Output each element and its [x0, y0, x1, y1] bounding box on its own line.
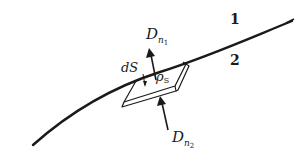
dn1-sub: n1 [158, 35, 168, 45]
region-1-label: 1 [230, 12, 240, 26]
dn2-subsub: 2 [190, 142, 194, 150]
dn2-arrow [157, 96, 168, 130]
rho-s-label: ρS [156, 70, 169, 85]
ds-label: dS [121, 61, 138, 74]
dn1-subsub: 1 [164, 39, 168, 47]
dn1-label: Dn1 [146, 27, 168, 47]
pillbox-side-face [176, 64, 189, 91]
dn1-main: D [146, 25, 158, 43]
diagram-canvas [0, 0, 306, 154]
dn2-main: D [172, 128, 184, 146]
region-2-label: 2 [230, 53, 240, 67]
pillbox-front-face [122, 86, 176, 107]
rho-sub: S [164, 76, 169, 85]
dn2-label: Dn2 [172, 130, 194, 150]
rho-main: ρ [156, 69, 164, 84]
dn2-sub: n2 [184, 138, 194, 148]
